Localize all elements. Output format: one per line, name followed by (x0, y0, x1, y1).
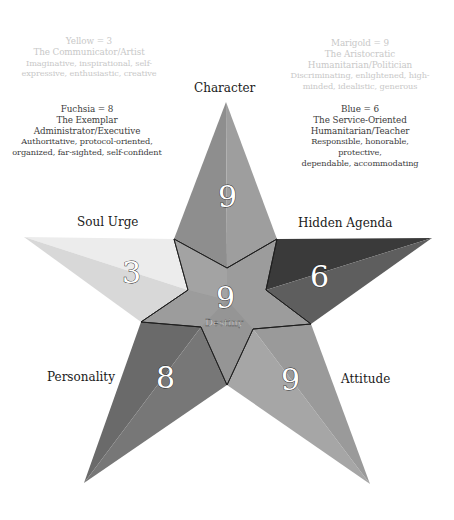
numerology-star: 9 3 6 8 9 9 Destiny (0, 0, 454, 520)
destiny-number: 9 (216, 280, 235, 315)
attitude-label: Attitude (341, 372, 390, 386)
destiny-label: Destiny (205, 317, 244, 328)
character-number: 9 (218, 179, 237, 214)
character-label: Character (194, 81, 255, 95)
hidden-agenda-label: Hidden Agenda (298, 216, 392, 230)
soul-urge-number: 3 (122, 255, 141, 290)
hidden-agenda-number: 6 (310, 259, 329, 294)
attitude-number: 9 (281, 362, 300, 397)
soul-urge-label: Soul Urge (77, 215, 138, 229)
personality-number: 8 (156, 360, 175, 395)
personality-label: Personality (47, 370, 115, 384)
